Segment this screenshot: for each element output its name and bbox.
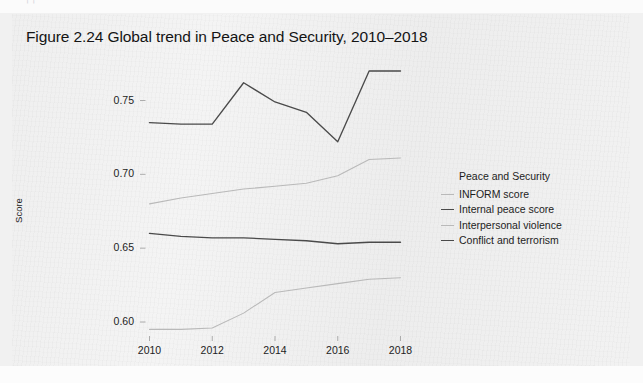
- figure-page: · ¡ ¡ ·· ·· · · · · · · Figure 2.24 Glob…: [0, 0, 643, 383]
- y-tick-label-1: 0.70: [100, 167, 134, 179]
- y-tick-label-0: 0.75: [100, 94, 134, 106]
- series-lines-layer: [150, 71, 401, 329]
- axis-tick-marks: [140, 101, 401, 342]
- y-tick-label-2: 0.65: [100, 241, 134, 253]
- page-bottom-margin: [0, 366, 643, 383]
- series-line-internal-peace-score: [150, 71, 401, 142]
- series-line-interpersonal-violence: [150, 278, 401, 330]
- y-axis-title: Score: [13, 181, 24, 241]
- legend-line-swatch-icon: [441, 209, 454, 210]
- x-tick-label-1: 2012: [192, 344, 232, 356]
- x-tick-label-3: 2016: [318, 344, 358, 356]
- chart-legend: Peace and Security INFORM scoreInternal …: [441, 169, 562, 249]
- legend-line-swatch-icon: [441, 194, 454, 195]
- legend-item-inform-score[interactable]: INFORM score: [441, 187, 562, 203]
- series-line-conflict-and-terrorism: [150, 233, 401, 243]
- x-tick-label-2: 2014: [255, 344, 295, 356]
- legend-item-label: Conflict and terrorism: [459, 233, 559, 249]
- x-tick-label-4: 2018: [381, 344, 421, 356]
- legend-item-conflict-and-terrorism[interactable]: Conflict and terrorism: [441, 233, 562, 249]
- y-tick-label-3: 0.60: [100, 315, 134, 327]
- chart-plot-area: 0.75 0.70 0.65 0.60 2010 2012 2014 2016 …: [0, 0, 643, 383]
- legend-item-label: INFORM score: [459, 187, 529, 203]
- legend-item-interpersonal-violence[interactable]: Interpersonal violence: [441, 218, 562, 234]
- legend-item-label: Internal peace score: [459, 202, 554, 218]
- series-line-inform-score: [150, 158, 401, 204]
- legend-rows: INFORM scoreInternal peace scoreInterper…: [441, 187, 562, 249]
- legend-item-internal-peace-score[interactable]: Internal peace score: [441, 202, 562, 218]
- x-tick-label-0: 2010: [130, 344, 170, 356]
- legend-title: Peace and Security: [459, 169, 562, 185]
- legend-item-label: Interpersonal violence: [459, 218, 562, 234]
- legend-line-swatch-icon: [441, 225, 454, 226]
- legend-line-swatch-icon: [441, 240, 454, 241]
